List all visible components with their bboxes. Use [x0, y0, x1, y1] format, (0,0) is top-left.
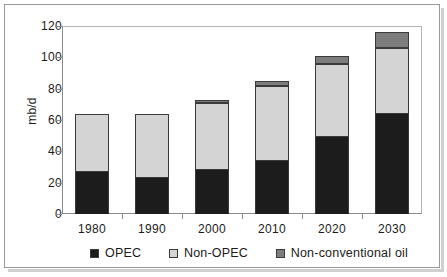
legend-swatch-opec [90, 249, 99, 258]
legend-item-label: OPEC [105, 246, 141, 260]
figure-shadow-bottom [8, 269, 444, 272]
bar-segment-non-opec [195, 103, 229, 170]
bar-segment-opec [135, 178, 169, 214]
bar-segment-non-conventional-oil [195, 100, 229, 103]
bar-segment-opec [195, 170, 229, 214]
bar-segment-non-conventional-oil [255, 81, 289, 86]
bar-segment-opec [75, 172, 109, 214]
figure-shadow-right [441, 8, 444, 272]
bar-group [375, 26, 409, 214]
x-tick-label: 2030 [378, 222, 406, 236]
y-tick-label: 40 [10, 144, 62, 158]
bar-segment-opec [375, 114, 409, 214]
bar-segment-non-opec [315, 64, 349, 138]
legend-item-label: Non-conventional oil [291, 246, 408, 260]
legend-swatch-non-conventional-oil [276, 249, 285, 258]
x-tick-label: 1980 [78, 222, 106, 236]
x-tick-mark [122, 214, 123, 219]
bar-group [75, 26, 109, 214]
legend-swatch-non-opec [169, 249, 178, 258]
bar-segment-non-conventional-oil [375, 32, 409, 48]
x-tick-mark [362, 214, 363, 219]
x-tick-mark [302, 214, 303, 219]
legend-item: Non-OPEC [169, 246, 248, 260]
y-tick-label: 100 [10, 50, 62, 64]
bar-group [255, 26, 289, 214]
bar-group [195, 26, 229, 214]
bar-segment-opec [255, 161, 289, 214]
chart-legend: OPECNon-OPECNon-conventional oil [62, 243, 422, 263]
bar-segment-non-opec [255, 86, 289, 161]
y-axis-ticks: 020406080100120 [0, 0, 62, 277]
bar-segment-non-opec [375, 48, 409, 114]
figure: mb/d 020406080100120 1980199020002010202… [0, 0, 447, 277]
plot-area [62, 26, 422, 214]
y-tick-label: 120 [10, 19, 62, 33]
y-tick-mark [56, 214, 62, 215]
x-tick-label: 2020 [318, 222, 346, 236]
bar-segment-non-opec [75, 114, 109, 172]
bar-segment-non-opec [135, 114, 169, 178]
legend-item: OPEC [90, 246, 141, 260]
y-tick-label: 80 [10, 82, 62, 96]
x-tick-mark [242, 214, 243, 219]
y-tick-label: 20 [10, 176, 62, 190]
legend-item: Non-conventional oil [276, 246, 408, 260]
bar-segment-non-conventional-oil [315, 56, 349, 64]
y-tick-label: 60 [10, 113, 62, 127]
bar-group [315, 26, 349, 214]
x-tick-label: 1990 [138, 222, 166, 236]
y-tick-label: 0 [10, 207, 62, 221]
x-tick-mark [182, 214, 183, 219]
legend-item-label: Non-OPEC [184, 246, 248, 260]
bar-segment-opec [315, 137, 349, 214]
x-tick-label: 2000 [198, 222, 226, 236]
bar-group [135, 26, 169, 214]
x-tick-label: 2010 [258, 222, 286, 236]
